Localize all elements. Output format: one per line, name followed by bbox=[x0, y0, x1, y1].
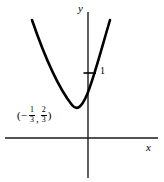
coordinate-plot bbox=[0, 0, 164, 182]
vertex-minus-sign: − bbox=[21, 110, 27, 121]
y-tick-label-1: 1 bbox=[100, 66, 105, 76]
graph-figure: y x 1 ( − 1 3 , 2 3 ) bbox=[0, 0, 164, 182]
parabola-curve bbox=[32, 20, 110, 108]
vertex-x-numerator: 1 bbox=[29, 106, 35, 114]
vertex-coordinate-label: ( − 1 3 , 2 3 ) bbox=[17, 106, 51, 125]
vertex-close-paren: ) bbox=[48, 110, 52, 121]
vertex-x-fraction: 1 3 bbox=[29, 106, 35, 125]
vertex-separator: , bbox=[36, 113, 39, 125]
vertex-y-numerator: 2 bbox=[41, 106, 47, 114]
vertex-x-denominator: 3 bbox=[29, 116, 35, 124]
y-axis-label: y bbox=[78, 3, 83, 14]
vertex-y-fraction: 2 3 bbox=[41, 106, 47, 125]
vertex-y-denominator: 3 bbox=[41, 116, 47, 124]
x-axis-label: x bbox=[146, 142, 151, 153]
